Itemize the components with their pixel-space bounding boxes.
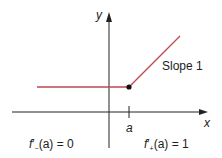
corner-point [126, 84, 131, 89]
y-axis-label: y [96, 9, 102, 21]
tick-label-a: a [126, 122, 133, 134]
right-derivative-label: f′+(a) = 1 [144, 138, 189, 152]
slope-annotation: Slope 1 [162, 60, 203, 72]
x-axis-label: x [204, 117, 210, 129]
left-deriv-rest: (a) = 0 [39, 137, 74, 151]
y-axis-arrow-icon [106, 12, 112, 22]
right-deriv-rest: (a) = 1 [154, 137, 189, 151]
plot-canvas [0, 0, 222, 158]
x-axis-arrow-icon [199, 109, 208, 115]
left-derivative-label: f′−(a) = 0 [29, 138, 74, 152]
